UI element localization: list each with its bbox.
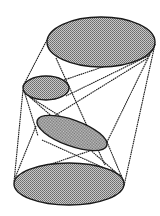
top-ellipse (47, 17, 155, 67)
hull-right (124, 44, 155, 186)
middle-tilted-ellipse (33, 108, 111, 158)
diagram-canvas: Convex hull of four ellipses (0, 0, 160, 216)
hull-left-lower (14, 90, 23, 182)
bottom-ellipse (14, 163, 124, 205)
small-upper-left-ellipse (23, 76, 69, 100)
ellipses (14, 17, 155, 205)
ellipse-hull-figure (0, 0, 160, 216)
